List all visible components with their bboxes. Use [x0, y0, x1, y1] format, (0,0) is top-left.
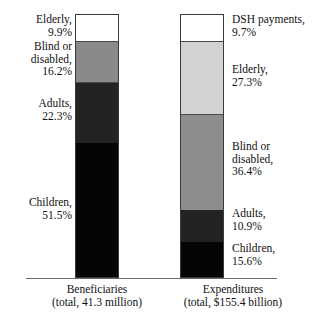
- label-beneficiaries-blind-or-disabled: Blind or disabled, 16.2%: [0, 40, 72, 78]
- label-expenditures-elderly: Elderly, 27.3%: [232, 63, 322, 88]
- caption-beneficiaries-total: (total, 41.3 million): [27, 296, 167, 309]
- label-expenditures-blind-or-disabled: Blind or disabled, 36.4%: [232, 140, 322, 178]
- segment-expenditures-children: [181, 242, 223, 277]
- bar-expenditures: [180, 14, 224, 278]
- stacked-bar-chart: Elderly, 9.9% Blind or disabled, 16.2% A…: [0, 0, 322, 323]
- caption-expenditures-name: Expenditures: [157, 283, 309, 296]
- label-expenditures-adults: Adults, 10.9%: [232, 207, 322, 232]
- label-beneficiaries-elderly: Elderly, 9.9%: [0, 13, 72, 38]
- segment-expenditures-dsh-payments: [181, 15, 223, 42]
- segment-beneficiaries-children: [76, 143, 118, 277]
- caption-expenditures-total: (total, $155.4 billion): [157, 296, 309, 309]
- segment-expenditures-adults: [181, 210, 223, 242]
- segment-beneficiaries-blind-or-disabled: [76, 42, 118, 83]
- segment-expenditures-elderly: [181, 42, 223, 115]
- label-expenditures-dsh-payments: DSH payments, 9.7%: [232, 13, 322, 38]
- caption-expenditures: Expenditures (total, $155.4 billion): [157, 283, 309, 310]
- segment-beneficiaries-adults: [76, 83, 118, 143]
- segment-expenditures-blind-or-disabled: [181, 115, 223, 210]
- label-beneficiaries-children: Children, 51.5%: [0, 196, 72, 221]
- caption-beneficiaries: Beneficiaries (total, 41.3 million): [27, 283, 167, 310]
- segment-beneficiaries-elderly: [76, 15, 118, 42]
- label-beneficiaries-adults: Adults, 22.3%: [0, 97, 72, 122]
- axis-baseline: [26, 278, 277, 279]
- label-expenditures-children: Children, 15.6%: [232, 242, 322, 267]
- caption-beneficiaries-name: Beneficiaries: [27, 283, 167, 296]
- bar-beneficiaries: [75, 14, 119, 278]
